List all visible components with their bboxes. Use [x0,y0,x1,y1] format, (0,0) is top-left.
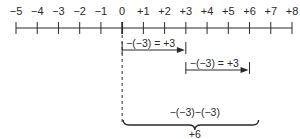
arrow-label: −(−3) = +3 [190,57,239,69]
tick-label: −4 [31,5,44,17]
tick-label: −2 [73,5,86,17]
tick-label: +5 [222,5,235,17]
tick-label: +3 [180,5,193,17]
tick-label: +2 [158,5,171,17]
tick-label: +6 [243,5,256,17]
brace-result-label: +6 [189,128,201,139]
tick-label: 0 [119,5,125,17]
tick-label: +1 [137,5,150,17]
tick-label: −1 [95,5,108,17]
brace-expression-label: −(−3)−(−3) [170,106,220,118]
tick-label: +7 [264,5,277,17]
tick-label: +8 [286,5,299,17]
tick-label: −3 [52,5,65,17]
number-line-diagram: −5−4−3−2−10+1+2+3+4+5+6+7+8 −(−3) = +3−(… [0,0,300,139]
arrow-label: −(−3) = +3 [126,37,175,49]
arrowhead-icon [241,67,249,73]
displacement-arrow: −(−3) = +3 [186,57,250,74]
displacement-arrow: −(−3) = +3 [122,37,186,54]
tick-label: +4 [201,5,214,17]
arrowhead-icon [177,47,185,53]
tick-label: −5 [10,5,23,17]
